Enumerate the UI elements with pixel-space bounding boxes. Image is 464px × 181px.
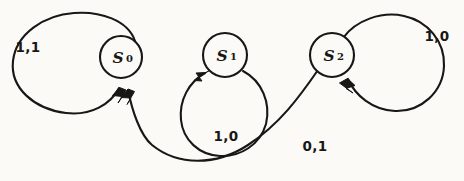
state-subscript-s0: 0 (126, 53, 133, 64)
arrowhead-s1-self (194, 70, 210, 81)
edge-label-s0-self: 1,1 (16, 39, 41, 55)
arrowhead-s2-self (340, 79, 356, 94)
state-label-s0: S (112, 48, 123, 67)
transition-s2-to-s0 (121, 70, 318, 161)
state-diagram: S 0 S 1 S 2 1,1 1,0 1,0 0,1 (0, 0, 464, 181)
edge-label-s1-self: 1,0 (214, 128, 239, 144)
state-node-s0[interactable]: S 0 (100, 36, 142, 78)
state-label-s2: S (323, 46, 334, 65)
state-node-s2[interactable]: S 2 (310, 33, 354, 77)
state-node-s1[interactable]: S 1 (203, 33, 247, 77)
edge-label-s2-self: 1,0 (425, 28, 450, 44)
state-subscript-s2: 2 (337, 51, 344, 62)
edge-path-s2-to-s0 (128, 70, 318, 161)
diagram-canvas: S 0 S 1 S 2 1,1 1,0 1,0 0,1 (0, 0, 464, 181)
state-label-s1: S (216, 46, 227, 65)
edge-label-s2-to-s0: 0,1 (303, 138, 328, 154)
state-subscript-s1: 1 (230, 51, 237, 62)
